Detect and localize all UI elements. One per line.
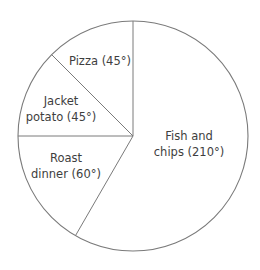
slice-label-jacket-line2: potato (45°) xyxy=(26,110,96,124)
pie-chart: Pizza (45°) Jacket potato (45°) Roast di… xyxy=(0,0,260,270)
slice-label-roast-line1: Roast xyxy=(50,151,83,165)
slice-label-pizza: Pizza (45°) xyxy=(69,54,131,68)
slice-pizza: Pizza (45°) xyxy=(69,54,131,68)
slice-label-roast-line2: dinner (60°) xyxy=(31,167,101,181)
slice-label-jacket-line1: Jacket xyxy=(43,94,79,108)
slice-label-fish-line1: Fish and xyxy=(165,129,213,143)
slice-label-fish-line2: chips (210°) xyxy=(154,145,224,159)
